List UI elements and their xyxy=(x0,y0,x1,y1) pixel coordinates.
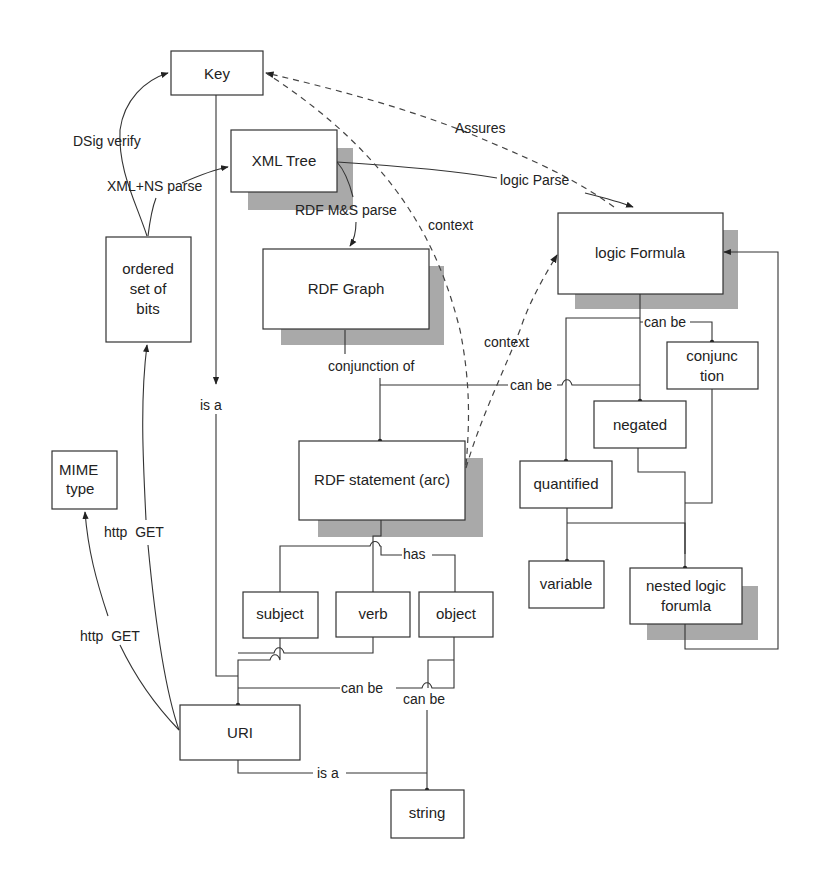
node-mime-type-line1: MIME xyxy=(59,461,98,478)
label-xml-ns-parse: XML+NS parse xyxy=(107,178,203,194)
node-subject: subject xyxy=(243,592,318,638)
node-conjunction: conjunc tion xyxy=(667,342,758,389)
label-context-1: context xyxy=(428,217,473,233)
node-mime-type: MIME type xyxy=(52,451,117,509)
node-xml-tree: XML Tree xyxy=(231,130,337,192)
node-key: Key xyxy=(171,51,263,95)
edge-object-can-be-string xyxy=(427,660,454,790)
node-ordered-bits: ordered set of bits xyxy=(106,237,191,342)
node-uri-label: URI xyxy=(227,724,253,741)
node-rdf-graph-label: RDF Graph xyxy=(308,280,385,297)
label-is-a-key: is a xyxy=(200,397,222,413)
edge-logic-parse xyxy=(337,162,633,207)
edge-context-logic xyxy=(466,255,557,468)
label-http-get-1: http GET xyxy=(104,524,164,540)
node-variable: variable xyxy=(529,561,604,608)
node-ordered-bits-line1: ordered xyxy=(122,260,174,277)
node-xml-tree-label: XML Tree xyxy=(252,152,316,169)
label-is-a-string: is a xyxy=(317,765,339,781)
edge-conjunction-down xyxy=(685,389,712,503)
label-can-be-statement: can be xyxy=(510,377,552,393)
node-uri: URI xyxy=(180,705,300,760)
edge-negated-down xyxy=(638,448,685,554)
node-rdf-statement-label: RDF statement (arc) xyxy=(314,471,450,488)
node-nested-logic-line2: forumla xyxy=(661,597,712,614)
label-conjunction-of: conjunction of xyxy=(328,358,415,374)
node-object: object xyxy=(419,592,493,637)
edge-http-get-mime xyxy=(85,512,179,730)
node-conjunction-line2: tion xyxy=(700,367,724,384)
node-quantified: quantified xyxy=(520,461,612,508)
edge-is-a-to-uri xyxy=(216,414,238,676)
node-subject-label: subject xyxy=(256,605,304,622)
node-object-label: object xyxy=(436,605,477,622)
label-logic-parse: logic Parse xyxy=(500,172,569,188)
edge-verb-to-uri xyxy=(238,637,373,653)
node-string: string xyxy=(391,790,464,838)
node-verb-label: verb xyxy=(358,605,387,622)
node-negated-label: negated xyxy=(613,416,667,433)
node-conjunction-line1: conjunc xyxy=(686,347,738,364)
node-logic-formula-label: logic Formula xyxy=(595,244,686,261)
node-rdf-statement: RDF statement (arc) xyxy=(299,441,465,520)
node-key-label: Key xyxy=(204,65,230,82)
label-assures: Assures xyxy=(455,120,506,136)
edge-subject-to-uri xyxy=(238,638,280,705)
node-ordered-bits-line2: set of xyxy=(130,280,168,297)
node-negated: negated xyxy=(594,401,686,448)
label-dsig-verify: DSig verify xyxy=(73,133,141,149)
label-can-be-uri: can be xyxy=(341,680,383,696)
label-http-get-2: http GET xyxy=(80,628,140,644)
node-rdf-graph: RDF Graph xyxy=(263,249,429,329)
edge-conjunction-of xyxy=(345,330,380,441)
semantic-web-diagram: Key XML Tree ordered set of bits RDF Gra… xyxy=(0,0,821,890)
node-nested-logic: nested logic forumla xyxy=(630,568,742,624)
node-nested-logic-line1: nested logic xyxy=(646,577,727,594)
node-quantified-label: quantified xyxy=(533,475,598,492)
label-has: has xyxy=(403,546,426,562)
node-verb: verb xyxy=(336,592,410,637)
edge-to-subject xyxy=(280,542,381,593)
label-context-2: context xyxy=(484,334,529,350)
node-string-label: string xyxy=(409,804,446,821)
node-logic-formula: logic Formula xyxy=(558,213,723,294)
node-mime-type-line2: type xyxy=(66,480,94,497)
node-variable-label: variable xyxy=(540,575,593,592)
label-can-be-string: can be xyxy=(403,691,445,707)
label-rdf-ms-parse: RDF M&S parse xyxy=(295,202,397,218)
node-ordered-bits-line3: bits xyxy=(136,300,159,317)
edge-dsig-verify xyxy=(120,73,168,236)
label-can-be-logic: can be xyxy=(644,314,686,330)
